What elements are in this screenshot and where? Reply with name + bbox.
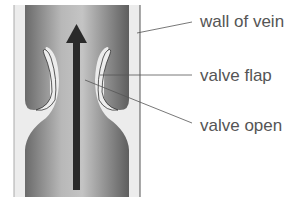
label-valve-flap: valve flap [200,67,272,84]
label-wall-of-vein: wall of vein [200,13,284,30]
label-valve-open: valve open [200,117,282,134]
flow-arrow-shaft [73,40,80,190]
